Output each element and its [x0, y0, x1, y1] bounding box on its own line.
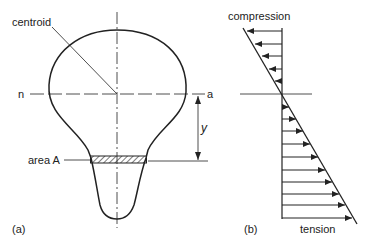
distance-y-label: y — [200, 121, 208, 135]
panel-b: compression tension (b) — [228, 10, 357, 235]
bending-stress-diagram: centroid n a area A y (a) — [0, 0, 374, 245]
area-a-strip — [91, 156, 147, 163]
stress-distribution-line — [243, 28, 357, 224]
compression-label: compression — [228, 10, 290, 22]
neutral-axis-n-label: n — [18, 88, 24, 100]
cross-section-outline — [49, 30, 186, 219]
neutral-axis-a-label: a — [207, 88, 214, 100]
panel-a-label: (a) — [12, 223, 25, 235]
panel-a: centroid n a area A y (a) — [12, 12, 214, 235]
area-a-label: area A — [28, 154, 60, 166]
tension-label: tension — [300, 223, 335, 235]
panel-b-label: (b) — [244, 223, 257, 235]
compression-arrows — [247, 31, 282, 81]
centroid-label: centroid — [12, 16, 51, 28]
tension-arrows — [282, 107, 352, 218]
